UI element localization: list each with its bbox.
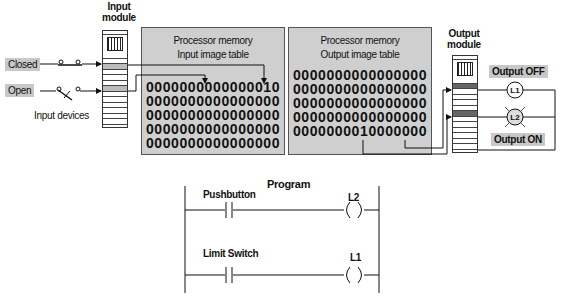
coil-l1-icon xyxy=(347,267,362,283)
limit-switch-contact-icon xyxy=(226,267,232,283)
svg-text:L2: L2 xyxy=(510,113,520,122)
open-switch-icon xyxy=(57,87,80,100)
ladder-diagram xyxy=(185,186,379,293)
svg-text:L1: L1 xyxy=(510,86,520,95)
lamp-l2-icon: L2 xyxy=(505,107,525,127)
wiring-diagram: L1 L2 xyxy=(0,0,561,296)
pushbutton-contact-icon xyxy=(226,202,232,218)
closed-switch-icon xyxy=(58,60,82,65)
coil-l2-icon xyxy=(347,202,362,218)
lamp-l1-icon: L1 xyxy=(507,82,523,98)
